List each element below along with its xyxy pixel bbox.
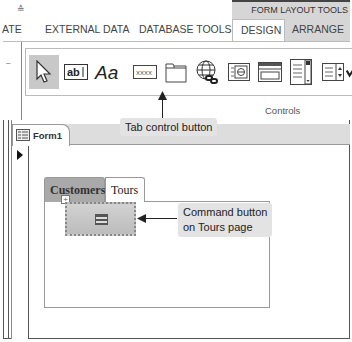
controls-gallery: ab Aa XXXX xyxy=(25,48,352,96)
callout-text-line2: on Tours page xyxy=(183,220,267,235)
tab-create[interactable]: ATE xyxy=(2,23,22,35)
svg-text:XXXX: XXXX xyxy=(136,70,152,76)
tab-control-button[interactable] xyxy=(161,55,191,89)
record-selector-column xyxy=(12,146,29,339)
callout-arrow-line xyxy=(145,218,177,219)
ribbon-tabs: ATE EXTERNAL DATA DATABASE TOOLS DESIGN … xyxy=(3,19,350,41)
callout-tab-control-button: Tab control button xyxy=(120,118,217,136)
navigation-control-icon xyxy=(258,62,282,82)
pointer-arrow-icon xyxy=(35,60,53,84)
contextual-tab-group-header: FORM LAYOUT TOOLS xyxy=(232,0,350,19)
combo-box-control-button[interactable] xyxy=(318,55,348,89)
command-button-form-icon xyxy=(95,214,108,225)
list-box-icon xyxy=(290,59,312,85)
tab-design-label: DESIGN xyxy=(241,24,281,36)
document-tab-form1[interactable]: Form1 xyxy=(12,124,70,146)
hyperlink-control-button[interactable] xyxy=(192,55,222,89)
list-box-control-button[interactable] xyxy=(286,55,316,89)
command-button[interactable] xyxy=(65,202,136,236)
web-browser-icon xyxy=(228,63,250,81)
callout-text-line1: Command button xyxy=(183,205,267,220)
globe-link-icon xyxy=(195,59,219,85)
callout-arrowhead-icon xyxy=(158,91,167,100)
tab-control-icon xyxy=(165,61,187,83)
navigation-control-button[interactable] xyxy=(255,55,285,89)
form-icon xyxy=(16,129,30,141)
button-control-button[interactable]: XXXX xyxy=(130,55,160,89)
check-box-control-button[interactable] xyxy=(346,55,352,89)
document-tab-label: Form1 xyxy=(33,130,62,141)
page-tab-tours[interactable]: Tours xyxy=(105,177,145,202)
page-tab-tours-label: Tours xyxy=(111,183,138,198)
quick-access-toolbar-customize-icon[interactable]: ≙ xyxy=(17,4,25,14)
current-record-arrow-icon xyxy=(17,150,23,160)
tab-database-tools[interactable]: DATABASE TOOLS xyxy=(139,23,232,35)
controls-group-label: Controls xyxy=(265,105,300,116)
svg-text:ab: ab xyxy=(67,66,80,78)
ribbon-divider xyxy=(21,42,22,120)
web-browser-control-button[interactable] xyxy=(224,55,254,89)
tab-external-data[interactable]: EXTERNAL DATA xyxy=(45,23,129,35)
check-mark-icon xyxy=(346,64,352,80)
contextual-group-label: FORM LAYOUT TOOLS xyxy=(251,5,348,15)
nav-pane-border xyxy=(8,120,9,339)
combo-box-icon xyxy=(322,63,344,81)
svg-text:Aa: Aa xyxy=(94,62,118,83)
tab-design[interactable]: DESIGN xyxy=(232,19,285,42)
select-control-button[interactable] xyxy=(29,55,59,89)
callout-text: Tab control button xyxy=(125,121,212,133)
label-control-button[interactable]: Aa xyxy=(92,55,126,89)
ribbon-panel: – ab Aa XXXX xyxy=(3,41,350,120)
page-tab-customers[interactable]: Customers xyxy=(44,177,105,202)
button-xxxx-icon: XXXX xyxy=(133,65,157,79)
callout-command-button: Command button on Tours page xyxy=(178,203,272,237)
ribbon-scroll-marker: – xyxy=(6,58,10,67)
label-aa-icon: Aa xyxy=(94,61,124,83)
textbox-ab-icon: ab xyxy=(64,64,88,80)
tab-arrange[interactable]: ARRANGE xyxy=(292,23,344,35)
text-box-control-button[interactable]: ab xyxy=(61,55,91,89)
page-tab-customers-label: Customers xyxy=(50,183,105,198)
